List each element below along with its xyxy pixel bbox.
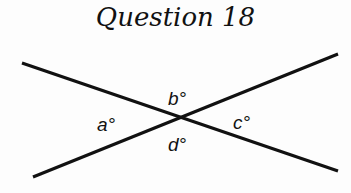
- question-diagram: Question 18 a° b° c° d°: [0, 0, 351, 193]
- angle-label-b: b°: [168, 88, 187, 109]
- angle-label-a: a°: [97, 114, 116, 135]
- angle-label-d: d°: [168, 134, 187, 155]
- angle-label-c: c°: [233, 112, 251, 133]
- line-2: [33, 54, 338, 177]
- intersecting-lines-figure: a° b° c° d°: [0, 0, 351, 193]
